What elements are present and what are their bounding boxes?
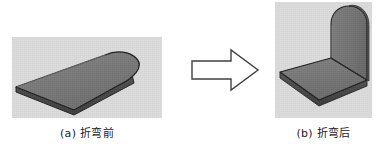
flat-sheet-illustration bbox=[12, 37, 162, 118]
caption-panel-a: (a) 折弯前 bbox=[12, 124, 162, 140]
figure-root: (a) 折弯前 (b) 折弯后 bbox=[0, 0, 379, 149]
caption-panel-b: (b) 折弯后 bbox=[275, 124, 372, 140]
block-arrow-right-icon bbox=[189, 46, 261, 94]
arrow-shape bbox=[192, 50, 258, 90]
panel-before-bending bbox=[12, 37, 162, 118]
panel-after-bending bbox=[275, 2, 372, 118]
process-arrow bbox=[189, 46, 261, 94]
bent-sheet-illustration bbox=[275, 2, 372, 118]
